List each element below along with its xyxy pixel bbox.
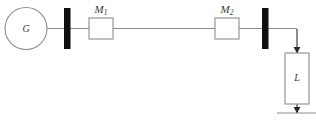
machine-1-symbol: M1 [89, 3, 113, 39]
load-symbol: L [285, 53, 309, 104]
machine-1-box [89, 18, 113, 39]
machine-2-symbol: M2 [215, 3, 239, 39]
machine-2-box [215, 18, 239, 39]
transmission-line-group [47, 29, 297, 54]
load-label: L [293, 72, 300, 83]
power-system-single-line-diagram: G M1 M2 L [0, 0, 316, 124]
machine-1-label: M1 [94, 3, 108, 17]
busbar-1 [64, 8, 71, 49]
generator-symbol: G [5, 8, 47, 50]
machine-2-label-subscript: 2 [230, 8, 234, 17]
machine-2-label: M2 [220, 3, 234, 17]
busbar-2 [262, 8, 269, 49]
schematic-canvas: G M1 M2 L [0, 0, 316, 124]
generator-label: G [22, 23, 29, 34]
machine-1-label-subscript: 1 [104, 8, 108, 17]
